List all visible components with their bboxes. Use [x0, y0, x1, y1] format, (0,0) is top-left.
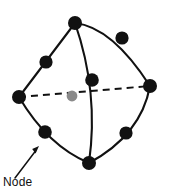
edge-interior-dashed-horizontal — [19, 86, 150, 97]
node-upper-right-midside — [115, 31, 128, 44]
edge-interior-vertical — [75, 23, 92, 163]
node-left-corner — [12, 90, 26, 104]
node-lower-right-midside — [119, 126, 132, 139]
node-right-corner — [143, 79, 157, 93]
node-top-corner — [68, 16, 82, 30]
node-bottom-corner — [82, 156, 96, 170]
node-center-gray — [67, 91, 78, 102]
node-lower-left-midside — [38, 125, 52, 139]
node-leader-arrowhead — [32, 146, 39, 154]
node-diagram-figure: Node — [0, 0, 170, 193]
edge-right-to-bottom — [89, 86, 150, 163]
mesh-element-diagram — [0, 0, 170, 193]
node-interior — [85, 73, 99, 87]
node-label: Node — [3, 175, 33, 189]
node-leader-line — [15, 151, 36, 178]
edge-bottom-to-left — [19, 97, 89, 163]
node-upper-left-midside — [39, 55, 52, 68]
